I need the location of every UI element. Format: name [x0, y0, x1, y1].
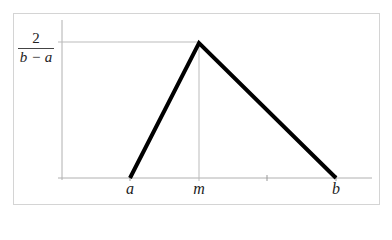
x-tick-label-b: b: [332, 180, 340, 198]
x-tick-label-a: a: [126, 180, 134, 198]
y-label-denominator: b − a: [16, 49, 56, 66]
x-tick-label-m: m: [193, 180, 205, 198]
pdf-curve: [130, 43, 336, 178]
y-label-numerator: 2: [18, 30, 54, 49]
y-tick-label-peak: 2 b − a: [16, 30, 56, 66]
